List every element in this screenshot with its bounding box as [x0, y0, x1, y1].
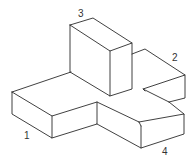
label-3: 3 — [78, 9, 84, 19]
raised-block — [70, 18, 132, 96]
label-2: 2 — [172, 53, 178, 63]
base-slab — [12, 49, 185, 148]
label-1: 1 — [24, 131, 30, 141]
isometric-diagram: 1 2 3 4 — [0, 0, 196, 160]
label-4: 4 — [162, 147, 168, 157]
